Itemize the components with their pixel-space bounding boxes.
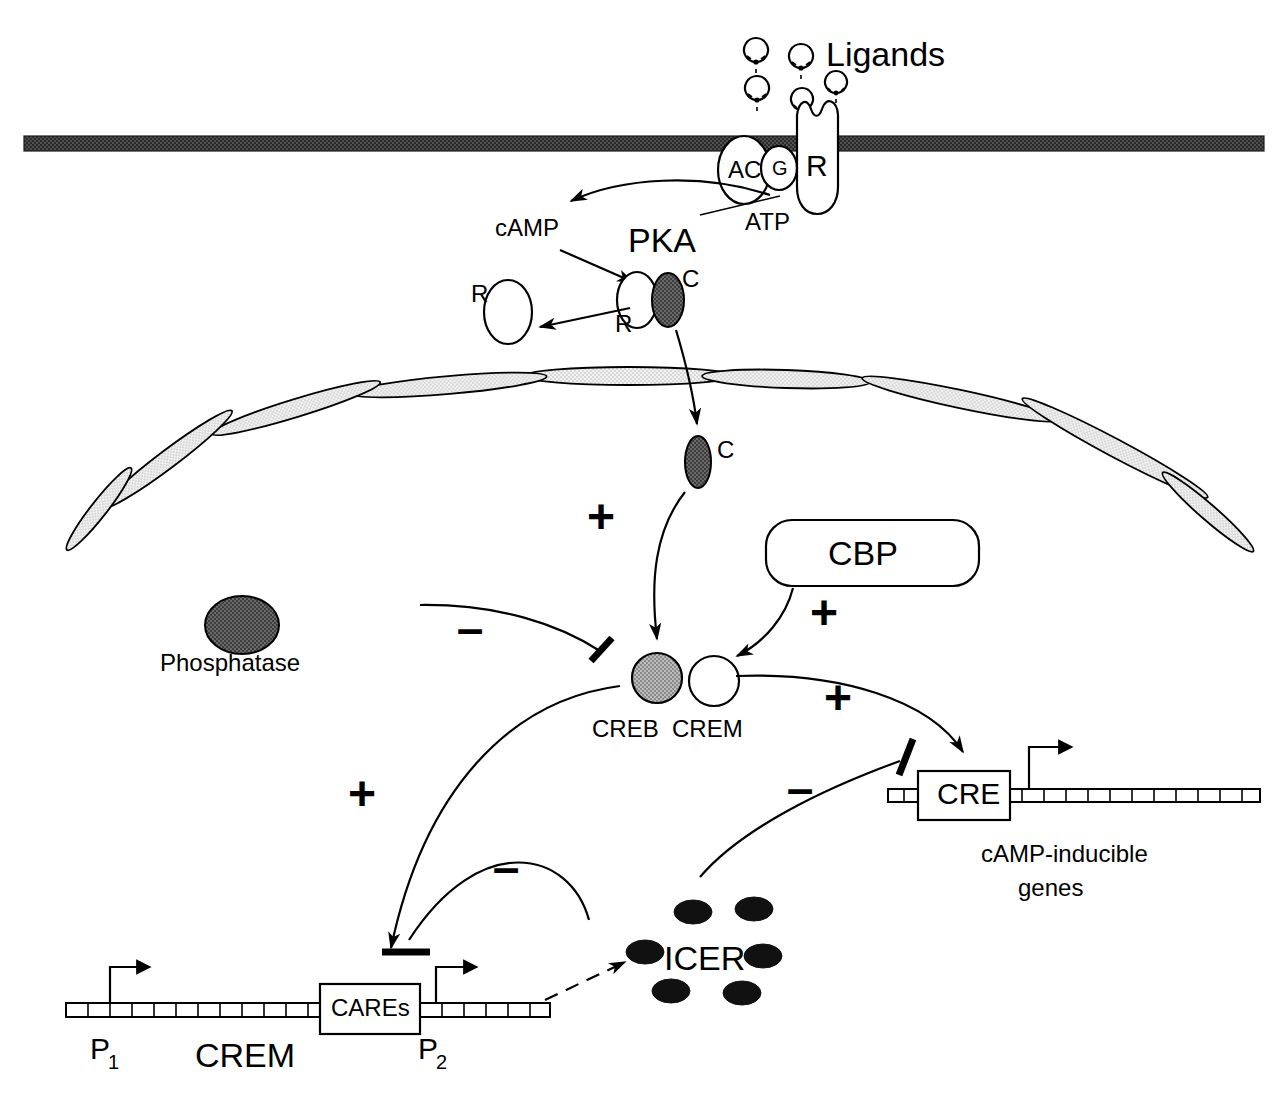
plus-sign-creb-to-cares: + — [348, 767, 376, 820]
icer-dot — [674, 900, 712, 924]
nuclear-segment — [351, 367, 548, 402]
receptor-label: R — [806, 149, 828, 182]
pka-catalytic-label: C — [682, 265, 699, 292]
camp-inducible-gene: CRE cAMP-inducible genes — [888, 747, 1260, 901]
crem-gene: CAREs P 1 P 2 CREM — [66, 967, 550, 1074]
dna-strand-crem-right — [420, 1003, 550, 1017]
cre-inhibition-bar — [899, 739, 913, 775]
pka-label: PKA — [628, 221, 696, 259]
ligand-icon — [825, 71, 847, 103]
pathway-diagram: Ligands AC G R ATP cAMP PKA C R R — [0, 0, 1288, 1100]
crem-gene-label: CREM — [195, 1036, 295, 1074]
ligand-icon — [789, 44, 813, 79]
receptor-complex: AC G R ATP — [700, 101, 838, 235]
minus-sign-crem-to-cre: – — [787, 762, 814, 815]
promoter-2-label: P — [418, 1032, 438, 1065]
minus-sign-icer-to-cares: – — [493, 841, 520, 894]
free-regulatory-label: R — [471, 280, 488, 307]
ligands-label: Ligands — [826, 35, 945, 73]
cre-transcription-arrow — [1029, 747, 1072, 789]
creb-crem-node: CREB CREM — [592, 653, 743, 742]
camp-label: cAMP — [495, 214, 559, 241]
crem-label: CREM — [672, 715, 743, 742]
ligand-icon — [744, 38, 768, 73]
p2-transcription-arrow — [436, 967, 477, 1003]
free-regulatory-shape — [484, 280, 532, 344]
promoter-1-label: P — [90, 1032, 110, 1065]
catalytic-label: C — [717, 436, 734, 463]
icer-dot — [744, 944, 782, 968]
cbp-label: CBP — [828, 534, 898, 572]
plus-sign-c-to-creb: + — [587, 490, 615, 543]
pka-catalytic-shape — [652, 273, 684, 327]
phosphatase-label: Phosphatase — [160, 649, 300, 676]
cre-box-label: CRE — [937, 777, 1000, 810]
icer-node: ICER — [626, 897, 782, 1005]
g-protein-label: G — [772, 157, 788, 179]
ligand-icon — [745, 76, 769, 111]
phosphatase-node: Phosphatase — [160, 596, 612, 676]
nuclear-segment — [61, 463, 138, 555]
atp-label: ATP — [745, 208, 790, 235]
crem-shape — [689, 656, 739, 706]
c-to-creb-arrow — [654, 492, 685, 639]
plus-sign-cbp: + — [810, 586, 838, 639]
icer-translation-arrow — [545, 962, 625, 1000]
cares-box-label: CAREs — [331, 994, 410, 1021]
creb-label: CREB — [592, 715, 659, 742]
icer-dot — [652, 979, 690, 1003]
cbp-to-creb-arrow — [737, 588, 793, 656]
camp-gene-caption-1: cAMP-inducible — [981, 840, 1148, 867]
nuclear-catalytic-subunit: C — [685, 436, 734, 488]
plasma-membrane — [24, 136, 1264, 151]
promoter-2-subscript: 2 — [436, 1051, 447, 1073]
nuclear-segment — [99, 404, 238, 515]
p1-transcription-arrow — [110, 967, 150, 1003]
icer-label: ICER — [664, 939, 745, 977]
phosphatase-inhibition-line — [420, 605, 600, 651]
creb-shape — [632, 653, 682, 703]
phosphatase-inhibition-bar — [591, 638, 612, 661]
icer-dot — [735, 897, 773, 921]
nuclear-segment — [702, 367, 871, 391]
ligand-group: Ligands — [744, 35, 945, 120]
cbp-node: CBP — [737, 520, 979, 656]
icer-dot — [626, 940, 664, 964]
phosphatase-shape — [205, 596, 279, 654]
dna-strand-crem-left — [66, 1003, 320, 1017]
catalytic-shape — [685, 436, 711, 488]
nuclear-envelope — [61, 367, 1259, 557]
minus-sign-phosphatase: – — [457, 602, 484, 655]
camp-to-pka-arrow — [560, 250, 633, 282]
nuclear-segment — [209, 374, 383, 443]
icer-dot — [723, 981, 761, 1005]
adenylyl-cyclase-label: AC — [728, 156, 761, 183]
icer-to-cares-inhibition — [382, 863, 589, 953]
nuclear-segment — [1157, 467, 1258, 558]
plus-sign-creb-to-cre: + — [824, 671, 852, 724]
camp-gene-caption-2: genes — [1018, 874, 1083, 901]
promoter-1-subscript: 1 — [108, 1051, 119, 1073]
pka-regulatory-label: R — [615, 310, 632, 337]
